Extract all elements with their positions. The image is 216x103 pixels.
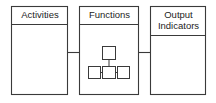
box-activities-label: Activities: [12, 9, 68, 20]
box-functions-label: Functions: [80, 9, 139, 20]
block-diagram: Activities Functions Output Indicators: [0, 0, 216, 103]
box-output-indicators-label: Output Indicators: [151, 9, 206, 31]
tree-node-leaf-2: [103, 67, 116, 79]
tree-node-leaf-3: [118, 67, 130, 79]
tree-node-root: [103, 47, 116, 60]
tree-node-leaf-1: [89, 67, 101, 79]
